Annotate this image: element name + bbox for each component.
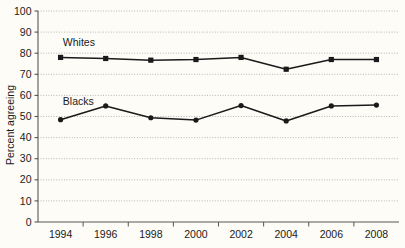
line-chart: 0102030405060708090100 19941996199820002… xyxy=(0,0,405,248)
x-tick-label-1998: 1998 xyxy=(139,228,163,240)
y-tick-label-50: 50 xyxy=(20,110,32,122)
data-point-whites-2000 xyxy=(193,57,198,62)
y-tick-label-20: 20 xyxy=(20,173,32,185)
data-point-blacks-1998 xyxy=(148,115,153,120)
y-tick-label-60: 60 xyxy=(20,89,32,101)
data-point-whites-2006 xyxy=(329,57,334,62)
series-label-blacks: Blacks xyxy=(63,95,94,107)
x-tick-label-2006: 2006 xyxy=(320,228,344,240)
data-point-blacks-1996 xyxy=(103,103,108,108)
x-tick-label-2002: 2002 xyxy=(229,228,253,240)
y-tick-label-80: 80 xyxy=(20,47,32,59)
y-tick-label-0: 0 xyxy=(26,216,32,228)
data-point-whites-2008 xyxy=(374,57,379,62)
y-axis-title: Percent agreeing xyxy=(4,85,16,165)
y-tick-label-30: 30 xyxy=(20,152,32,164)
data-point-whites-1994 xyxy=(58,55,63,60)
x-tick-label-1994: 1994 xyxy=(49,228,73,240)
data-point-whites-2002 xyxy=(238,55,243,60)
y-tick-label-100: 100 xyxy=(14,5,32,17)
data-point-blacks-2002 xyxy=(238,103,243,108)
y-tick-label-10: 10 xyxy=(20,195,32,207)
chart-container: 0102030405060708090100 19941996199820002… xyxy=(0,0,405,248)
data-point-blacks-2000 xyxy=(193,117,198,122)
y-tick-label-40: 40 xyxy=(20,131,32,143)
data-point-whites-1996 xyxy=(103,56,108,61)
x-tick-label-2000: 2000 xyxy=(184,228,208,240)
data-point-blacks-1994 xyxy=(58,117,63,122)
data-point-whites-1998 xyxy=(148,58,153,63)
data-point-whites-2004 xyxy=(284,67,289,72)
series-label-whites: Whites xyxy=(63,36,95,48)
y-tick-label-90: 90 xyxy=(20,26,32,38)
x-tick-label-2008: 2008 xyxy=(365,228,389,240)
x-tick-label-2004: 2004 xyxy=(275,228,299,240)
data-point-blacks-2006 xyxy=(329,103,334,108)
data-point-blacks-2008 xyxy=(374,103,379,108)
data-point-blacks-2004 xyxy=(284,118,289,123)
x-tick-label-1996: 1996 xyxy=(94,228,118,240)
y-tick-label-70: 70 xyxy=(20,68,32,80)
chart-background xyxy=(0,0,405,248)
